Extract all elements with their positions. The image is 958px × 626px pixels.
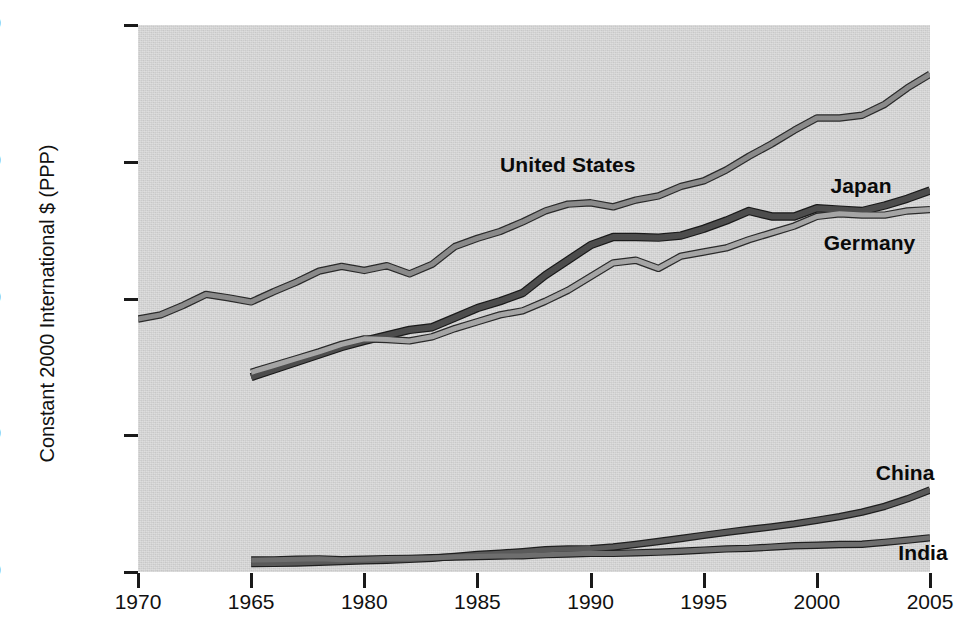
- series-label-japan: Japan: [830, 174, 891, 198]
- y-axis-title: Constant 2000 International $ (PPP): [36, 24, 59, 584]
- y-tick-label: 20,000: [0, 285, 1, 309]
- x-tick-label: 1980: [309, 590, 419, 614]
- x-tick-mark: [816, 573, 819, 588]
- x-tick-mark: [703, 573, 706, 588]
- series-label-china: China: [876, 461, 935, 485]
- y-tick-label: 10,000: [0, 421, 1, 445]
- y-tick-mark: [124, 298, 138, 301]
- x-tick-label: 1965: [196, 590, 306, 614]
- x-tick-mark: [590, 573, 593, 588]
- series-label-germany: Germany: [824, 231, 916, 255]
- x-tick-mark: [363, 573, 366, 588]
- x-tick-mark: [250, 573, 253, 588]
- x-tick-mark: [476, 573, 479, 588]
- y-tick-label: 0: [0, 558, 1, 582]
- x-tick-label: 1970: [83, 590, 193, 614]
- y-tick-label: 40,000: [0, 11, 1, 35]
- x-tick-label: 1990: [536, 590, 646, 614]
- x-tick-label: 1985: [422, 590, 532, 614]
- y-tick-label: 30,000: [0, 148, 1, 172]
- x-tick-mark: [929, 573, 932, 588]
- y-tick-mark: [124, 161, 138, 164]
- x-tick-label: 1995: [649, 590, 759, 614]
- series-lines: [138, 25, 930, 572]
- plot-area: United StatesJapanGermanyChinaIndia: [138, 25, 930, 572]
- series-label-united-states: United States: [500, 153, 636, 177]
- x-tick-label: 2000: [762, 590, 872, 614]
- series-label-india: India: [898, 541, 948, 565]
- y-tick-mark: [124, 434, 138, 437]
- x-tick-label: 2005: [875, 590, 958, 614]
- x-tick-mark: [137, 573, 140, 588]
- y-tick-mark: [124, 571, 138, 574]
- y-tick-mark: [124, 24, 138, 27]
